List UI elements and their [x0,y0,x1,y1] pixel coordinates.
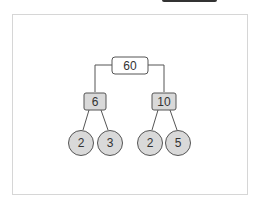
factor-node-left: 6 [84,93,106,110]
factor-node-right: 10 [152,93,176,110]
factor-left-label: 6 [92,95,99,109]
prime-leaf-label: 2 [78,136,85,150]
factor-tree: 60 6 10 2 3 2 5 [0,0,260,203]
prime-leaf: 5 [166,131,191,156]
prime-leaf: 2 [138,131,163,156]
root-label: 60 [123,59,137,73]
prime-leaf-label: 3 [107,136,114,150]
root-node: 60 [112,57,148,74]
prime-leaf-label: 2 [147,136,154,150]
prime-leaf: 2 [69,131,94,156]
prime-leaf: 3 [98,131,123,156]
prime-leaf-label: 5 [175,136,182,150]
leaf-connectors [83,110,177,130]
factor-right-label: 10 [157,95,171,109]
